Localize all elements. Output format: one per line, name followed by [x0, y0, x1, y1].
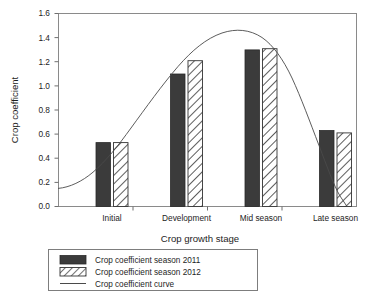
y-tick-label-0: 0.0: [38, 201, 50, 211]
y-tick-label-8: 1.6: [38, 8, 50, 18]
x-axis-title: Crop growth stage: [161, 233, 239, 244]
y-tick-label-5: 1.0: [38, 81, 50, 91]
bar-2012-initial: [114, 143, 129, 207]
y-tick-label-6: 1.2: [38, 57, 50, 67]
bar-2011-initial: [96, 143, 111, 207]
x-tick-label-development: Development: [162, 213, 212, 223]
y-tick-label-3: 0.6: [38, 129, 50, 139]
bar-2011-development: [171, 74, 186, 207]
legend-label-season-2011: Crop coefficient season 2011: [95, 256, 201, 265]
bar-2011-late-season: [320, 131, 335, 207]
x-tick-label-initial: Initial: [102, 213, 122, 223]
y-axis-ticks: [55, 14, 59, 207]
chart-canvas: 0.0 0.2 0.4 0.6 0.8 1.0 1.2 1.4 1.6 Crop…: [0, 0, 369, 299]
legend-swatch-season-2011: [60, 256, 86, 265]
x-tick-label-late-season: Late season: [313, 213, 359, 223]
y-tick-label-2: 0.4: [38, 153, 50, 163]
legend: Crop coefficient season 2011 Crop coeffi…: [49, 250, 258, 291]
bar-2012-mid-season: [263, 49, 278, 207]
x-axis-ticks: [133, 207, 282, 211]
x-axis: Initial Development Mid season Late seas…: [102, 213, 358, 244]
legend-label-curve: Crop coefficient curve: [95, 280, 174, 289]
y-axis-title: Crop coefficient: [9, 76, 20, 143]
x-tick-label-mid-season: Mid season: [240, 213, 283, 223]
bar-2011-mid-season: [245, 50, 260, 207]
y-tick-label-1: 0.2: [38, 177, 50, 187]
legend-label-season-2012: Crop coefficient season 2012: [95, 268, 201, 277]
bar-2012-development: [188, 61, 203, 207]
y-tick-label-4: 0.8: [38, 105, 50, 115]
y-tick-label-7: 1.4: [38, 33, 50, 43]
crop-coefficient-chart-figure: 0.0 0.2 0.4 0.6 0.8 1.0 1.2 1.4 1.6 Crop…: [0, 0, 369, 299]
y-axis: 0.0 0.2 0.4 0.6 0.8 1.0 1.2 1.4 1.6 Crop…: [9, 8, 59, 211]
legend-swatch-season-2012: [60, 268, 86, 277]
